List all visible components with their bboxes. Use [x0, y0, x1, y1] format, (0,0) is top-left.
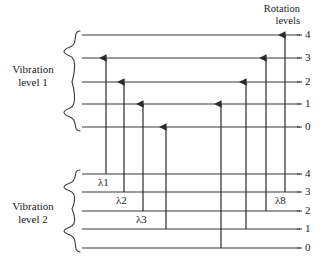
transition-label-lambda3: λ3 — [136, 213, 147, 226]
lower-level-number-3: 3 — [305, 185, 323, 198]
transition-label-lambda1: λ1 — [98, 176, 109, 189]
diagram-canvas — [0, 0, 325, 266]
vibration-level-2-label: Vibration level 2 — [0, 200, 66, 225]
transition-arrows — [106, 35, 285, 248]
upper-level-number-4: 4 — [305, 28, 323, 41]
level-number-ticks — [297, 35, 302, 248]
upper-level-number-3: 3 — [305, 51, 323, 64]
vibration-level-1-label: Vibration level 1 — [0, 63, 66, 88]
lower-level-number-1: 1 — [305, 222, 323, 235]
upper-level-number-0: 0 — [305, 120, 323, 133]
upper-level-lines — [82, 35, 300, 127]
upper-level-number-2: 2 — [305, 75, 323, 88]
brace-vibration-level-1 — [64, 31, 80, 131]
upper-level-number-1: 1 — [305, 97, 323, 110]
transition-label-lambda8: λ8 — [275, 194, 286, 207]
lower-level-number-0: 0 — [305, 241, 323, 254]
lower-level-lines — [82, 174, 300, 248]
lower-level-number-2: 2 — [305, 204, 323, 217]
lower-level-number-4: 4 — [305, 167, 323, 180]
brace-vibration-level-2 — [64, 170, 80, 252]
energy-level-diagram: Rotation levels Vibration level 1 Vibrat… — [0, 0, 325, 266]
rotation-levels-caption: Rotation levels — [222, 3, 300, 27]
transition-label-lambda2: λ2 — [116, 194, 127, 207]
